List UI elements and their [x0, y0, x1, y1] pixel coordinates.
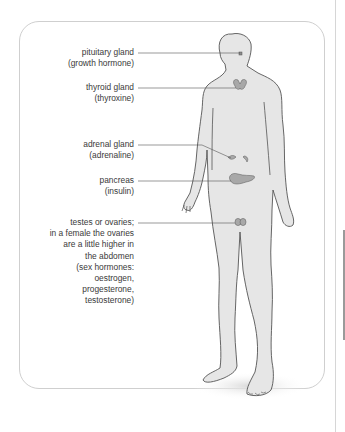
label-gonads-line-5: (sex hormones: — [50, 262, 134, 273]
pituitary-gland-shape — [239, 52, 242, 55]
label-pancreas-hormone: (insulin) — [100, 186, 134, 197]
label-gonads-line-8: testosterone) — [50, 295, 134, 306]
human-body-figure — [0, 0, 345, 432]
label-gonads-line-7: progesterone, — [50, 284, 134, 295]
label-pancreas-name: pancreas — [100, 175, 134, 186]
label-pituitary-hormone: (growth hormone) — [68, 58, 134, 69]
label-pituitary-name: pituitary gland — [68, 47, 134, 58]
label-gonads-line-3: are a little higher in — [50, 239, 134, 250]
label-pituitary-gland: pituitary gland (growth hormone) — [68, 47, 134, 69]
label-gonads-line-1: testes or ovaries; — [50, 217, 134, 228]
label-thyroid-hormone: (thyroxine) — [86, 93, 134, 104]
label-thyroid-name: thyroid gland — [86, 82, 134, 93]
label-gonads-line-6: oestrogen, — [50, 273, 134, 284]
label-adrenal-name: adrenal gland — [83, 139, 134, 150]
label-adrenal-hormone: (adrenaline) — [83, 150, 134, 161]
faint-caption-bleedthrough — [58, 420, 208, 430]
label-adrenal-gland: adrenal gland (adrenaline) — [83, 139, 134, 161]
label-testes-ovaries: testes or ovaries; in a female the ovari… — [50, 217, 134, 307]
label-thyroid-gland: thyroid gland (thyroxine) — [86, 82, 134, 104]
label-gonads-line-4: the abdomen — [50, 251, 134, 262]
label-gonads-line-2: in a female the ovaries — [50, 228, 134, 239]
label-pancreas: pancreas (insulin) — [100, 175, 134, 197]
gonad-right-shape — [240, 218, 246, 225]
